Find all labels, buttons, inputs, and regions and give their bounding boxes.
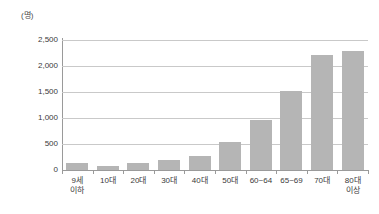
x-axis-tick-label: 65~69 [276,176,307,186]
y-axis-tick-label: 0 [12,166,58,174]
bar-slot [123,40,154,170]
bar-slot [62,40,93,170]
bar-slot [246,40,277,170]
bar[interactable] [158,160,180,170]
bar[interactable] [189,156,211,170]
plot-area [62,40,368,170]
bar[interactable] [311,55,333,170]
x-axis-tick [307,170,308,174]
x-axis-tick-labels: 9세 이하10대20대30대40대50대60~6465~6970대80대 이상 [62,176,368,212]
y-axis-tick-label: 1,000 [12,114,58,122]
x-axis-tick [93,170,94,174]
bar[interactable] [250,120,272,170]
x-axis-tick [337,170,338,174]
bar[interactable] [127,163,149,170]
x-axis-tick-label: 10대 [93,176,124,186]
x-axis-tick [184,170,185,174]
bar-slot [276,40,307,170]
bar-slot [307,40,338,170]
x-axis-tick-label: 60~64 [246,176,277,186]
bar[interactable] [97,166,119,170]
bar-chart: (명) 2,5002,0001,5001,0005000 9세 이하10대20대… [0,0,379,214]
x-axis-tick-label: 20대 [123,176,154,186]
x-axis-tick [246,170,247,174]
x-axis-tick [215,170,216,174]
bar[interactable] [219,142,241,170]
bar[interactable] [342,51,364,170]
y-axis-tick-label: 1,500 [12,88,58,96]
y-axis-tick-label: 500 [12,140,58,148]
x-axis-tick-label: 30대 [154,176,185,186]
bar-slot [337,40,368,170]
bar[interactable] [66,163,88,170]
bar-slot [215,40,246,170]
x-axis-tick-label: 9세 이하 [62,176,93,196]
x-axis-tick-label: 40대 [184,176,215,186]
x-axis-tick [62,170,63,174]
bar-slot [93,40,124,170]
x-axis-tick-label: 50대 [215,176,246,186]
y-axis-tick-labels: 2,5002,0001,5001,0005000 [8,0,58,214]
bar[interactable] [280,91,302,170]
x-axis-tick [154,170,155,174]
bar-slot [154,40,185,170]
x-axis-tick-label: 70대 [307,176,338,186]
x-axis-tick [276,170,277,174]
x-axis-tick-label: 80대 이상 [337,176,368,196]
y-axis-tick-label: 2,000 [12,62,58,70]
x-axis-tick [368,170,369,174]
bar-slot [184,40,215,170]
x-axis-tick [123,170,124,174]
y-axis-tick-label: 2,500 [12,36,58,44]
